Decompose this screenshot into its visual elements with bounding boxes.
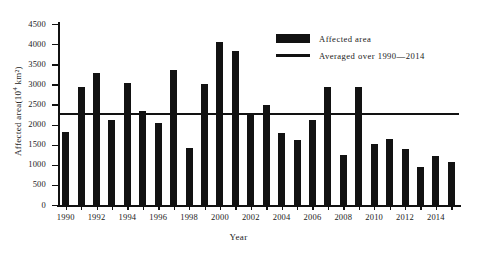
bar-1994 [124,83,131,205]
chart-container: 050010001500200025003000350040004500 199… [0,0,477,265]
bar-2013 [417,167,424,205]
bar-2005 [294,140,301,205]
legend-bar-swatch-icon [276,34,310,43]
legend-item-average: Averaged over 1990—2014 [276,47,425,64]
legend-label-average: Averaged over 1990—2014 [319,51,425,61]
x-tick-2003 [266,205,267,210]
x-axis-line [57,205,461,207]
bar-2015 [448,162,455,205]
x-tick-2010 [374,205,375,210]
x-tick-1991 [81,205,82,210]
average-reference-line [58,113,459,115]
x-tick-1994 [127,205,128,210]
x-tick-2009 [359,205,360,210]
x-tick-2011 [390,205,391,210]
x-tick-1990 [66,205,67,210]
x-tick-1999 [205,205,206,210]
y-axis-title-exponent: 4 [11,87,18,91]
bar-2003 [263,105,270,205]
y-axis-title-main: Affected area(10 [13,91,23,156]
bar-1992 [93,73,100,205]
x-tick-2008 [343,205,344,210]
y-tick-label-0: 0 [8,201,46,210]
x-tick-2000 [220,205,221,210]
y-tick-0 [52,205,58,206]
x-tick-1992 [97,205,98,210]
x-tick-2014 [436,205,437,210]
x-tick-1997 [174,205,175,210]
x-tick-2013 [420,205,421,210]
legend-label-affected-area: Affected area [319,34,371,44]
chart-legend: Affected area Averaged over 1990—2014 [276,30,425,64]
x-tick-2004 [282,205,283,210]
x-tick-2002 [251,205,252,210]
bar-2009 [355,87,362,205]
bar-1998 [186,148,193,205]
bar-2006 [309,120,316,205]
bar-1997 [170,70,177,205]
bar-1996 [155,123,162,205]
bar-2014 [432,156,439,205]
bar-2008 [340,155,347,205]
bar-2002 [247,115,254,205]
bar-2010 [371,144,378,205]
bar-1991 [78,87,85,205]
bar-2000 [216,42,223,205]
bar-1993 [108,120,115,205]
x-tick-2007 [328,205,329,210]
y-axis-title-unit: km²) [13,66,23,87]
bar-2012 [402,149,409,205]
x-tick-1993 [112,205,113,210]
bar-2001 [232,51,239,205]
x-tick-2015 [451,205,452,210]
legend-line-swatch-icon [276,54,310,57]
bar-2007 [324,87,331,205]
legend-item-affected-area: Affected area [276,30,425,47]
bar-2004 [278,133,285,205]
x-tick-1995 [143,205,144,210]
x-tick-2005 [297,205,298,210]
bar-2011 [386,139,393,205]
x-tick-2001 [235,205,236,210]
y-axis-title: Affected area(104 km²) [11,31,23,191]
bar-1999 [201,84,208,205]
x-tick-label-2014: 2014 [416,213,456,222]
y-tick-label-4500: 4500 [8,20,46,29]
x-tick-2006 [312,205,313,210]
x-tick-1996 [158,205,159,210]
x-tick-1998 [189,205,190,210]
x-axis-title: Year [0,232,477,242]
x-tick-2012 [405,205,406,210]
bar-1990 [62,132,69,205]
bar-1995 [139,111,146,205]
